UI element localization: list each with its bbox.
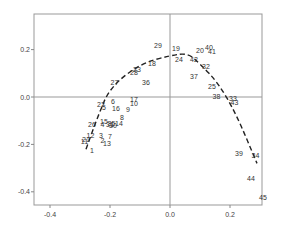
point-label-7: 7 xyxy=(108,133,112,140)
point-labels: 1234567891011121314151617181920212223242… xyxy=(81,42,267,201)
point-label-42: 42 xyxy=(190,56,198,63)
point-label-27: 27 xyxy=(111,79,119,86)
x-tick-label: 0.2 xyxy=(225,211,235,218)
point-label-28: 28 xyxy=(130,69,138,76)
y-tick-label: -0.4 xyxy=(18,188,30,195)
plot-frame xyxy=(34,14,262,205)
point-label-29: 29 xyxy=(154,42,162,49)
point-label-1: 1 xyxy=(90,147,94,154)
point-label-18: 18 xyxy=(148,60,156,67)
point-label-21: 21 xyxy=(82,136,90,143)
y-tick-label: 0.2 xyxy=(20,46,30,53)
point-label-35: 35 xyxy=(108,120,116,127)
x-tick-label: -0.4 xyxy=(44,211,56,218)
point-label-6: 6 xyxy=(111,98,115,105)
point-label-16: 16 xyxy=(112,105,120,112)
point-label-20: 20 xyxy=(196,47,204,54)
point-label-25: 25 xyxy=(208,83,216,90)
point-label-41: 41 xyxy=(208,48,216,55)
point-label-37: 37 xyxy=(190,73,198,80)
point-label-17: 17 xyxy=(130,96,138,103)
point-label-26: 26 xyxy=(88,121,96,128)
y-tick-label: -0.2 xyxy=(18,141,30,148)
reference-lines xyxy=(34,14,262,205)
point-label-19: 19 xyxy=(172,45,180,52)
point-label-32: 32 xyxy=(202,63,210,70)
point-label-38: 38 xyxy=(213,93,221,100)
point-label-44: 44 xyxy=(247,175,255,182)
point-label-45: 45 xyxy=(259,194,267,201)
x-axis-ticks: -0.4-0.20.00.2 xyxy=(44,205,235,218)
point-label-24: 24 xyxy=(175,56,183,63)
point-label-13: 13 xyxy=(103,140,111,147)
point-label-22: 22 xyxy=(97,101,105,108)
scatter-chart: 1234567891011121314151617181920212223242… xyxy=(0,0,286,233)
x-tick-label: -0.2 xyxy=(104,211,116,218)
point-label-36: 36 xyxy=(142,79,150,86)
point-label-43: 43 xyxy=(231,99,239,106)
y-tick-label: 0.0 xyxy=(20,94,30,101)
point-label-34: 34 xyxy=(252,152,260,159)
y-axis-ticks: 0.20.0-0.2-0.4 xyxy=(18,46,34,195)
point-label-3: 3 xyxy=(99,132,103,139)
point-label-39: 39 xyxy=(235,150,243,157)
x-tick-label: 0.0 xyxy=(165,211,175,218)
